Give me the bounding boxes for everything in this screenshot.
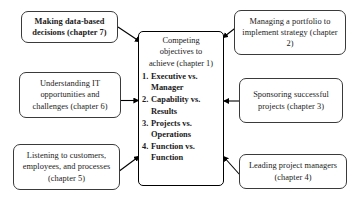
center-heading-line-2: objectives to — [141, 46, 221, 57]
list-item: 4.Function vs. Function — [142, 141, 222, 164]
node-label: Listening to customers, employees, and p… — [17, 150, 116, 184]
list-item-label: Projects vs. Operations — [151, 119, 192, 139]
center-heading: Competing objectives to achieve (chapter… — [141, 35, 221, 69]
node-label: Managing a portfolio to implement strate… — [238, 16, 342, 50]
list-item-number: 1. — [142, 71, 148, 82]
node-managing-portfolio[interactable]: Managing a portfolio to implement strate… — [234, 10, 346, 55]
node-label: Leading project managers (chapter 4) — [243, 160, 343, 182]
node-listening-customers[interactable]: Listening to customers, employees, and p… — [13, 144, 120, 190]
node-label: Making data-based decisions (chapter 7) — [25, 16, 114, 38]
node-sponsoring-projects[interactable]: Sponsoring successful projects (chapter … — [239, 78, 343, 123]
diagram-canvas: Making data-based decisions (chapter 7) … — [0, 0, 353, 203]
list-item-label: Function vs. Function — [151, 142, 195, 162]
node-label: Understanding IT opportunities and chall… — [23, 78, 117, 112]
node-label: Sponsoring successful projects (chapter … — [243, 89, 339, 111]
list-item-number: 3. — [142, 118, 148, 129]
center-heading-line-3: achieve (chapter 1) — [141, 58, 221, 69]
node-competing-objectives[interactable]: Competing objectives to achieve (chapter… — [138, 31, 224, 186]
list-item-label: Capability vs. Results — [151, 95, 200, 115]
list-item-label: Executive vs. Manager — [151, 72, 198, 92]
node-understanding-it[interactable]: Understanding IT opportunities and chall… — [19, 72, 121, 118]
list-item-number: 2. — [142, 94, 148, 105]
arrow-bottom-right-to-center — [223, 156, 240, 175]
list-item-number: 4. — [142, 141, 148, 152]
arrow-bottom-left-to-center — [118, 156, 140, 172]
node-leading-project-managers[interactable]: Leading project managers (chapter 4) — [239, 154, 347, 189]
center-heading-line-1: Competing — [141, 35, 221, 46]
node-making-data-based-decisions[interactable]: Making data-based decisions (chapter 7) — [21, 11, 118, 43]
list-item: 1.Executive vs. Manager — [142, 71, 222, 94]
list-item: 3.Projects vs. Operations — [142, 118, 222, 141]
objective-list: 1.Executive vs. Manager 2.Capability vs.… — [140, 71, 222, 164]
list-item: 2.Capability vs. Results — [142, 94, 222, 117]
